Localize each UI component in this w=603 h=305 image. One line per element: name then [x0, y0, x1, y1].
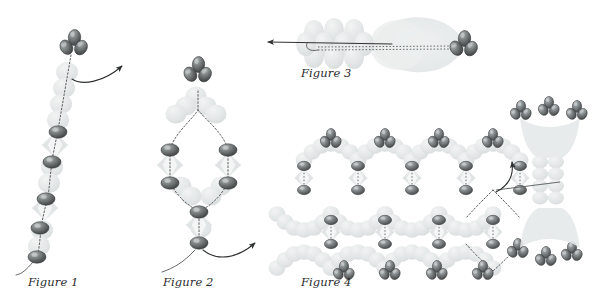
- figure-4-annotation-arrow: [496, 162, 512, 192]
- figure-2-node: [161, 177, 179, 189]
- figure-1-node: [43, 156, 61, 168]
- figure-2-group: [157, 56, 255, 272]
- figure-1-group: [16, 29, 122, 275]
- figure-1-node: [28, 251, 46, 263]
- caption-figure-1: Figure 1: [28, 275, 79, 289]
- figure-2-node: [219, 144, 237, 156]
- caption-figure-4: Figure 4: [301, 275, 352, 289]
- figure-1-node: [37, 193, 55, 205]
- figure-4-group: [269, 96, 589, 281]
- figure-1-tail: [16, 262, 33, 275]
- figure-2-node: [190, 206, 208, 218]
- figure-3-group: [268, 17, 480, 72]
- figure-4-ghost-lattice: [269, 136, 529, 276]
- figure-3-envelope-lobe: [370, 20, 426, 70]
- figure-1-trefoil-cluster: [57, 29, 90, 57]
- figure-4-node-row-upper: [297, 161, 526, 170]
- figure-2-tail: [162, 250, 195, 272]
- caption-figure-2: Figure 2: [163, 275, 214, 289]
- figure-2-node: [161, 144, 179, 156]
- figure-1-node: [31, 222, 49, 234]
- figure-2-node: [219, 177, 237, 189]
- figure-4-trefoil-bottom: [331, 260, 495, 281]
- figure-2-node: [190, 237, 208, 249]
- figures-canvas: [0, 0, 603, 305]
- caption-figure-3: Figure 3: [301, 66, 352, 80]
- figure-1-annotation-arrow: [72, 66, 122, 82]
- figure-2-trefoil-cluster: [181, 56, 214, 84]
- figure-1-node: [49, 126, 67, 138]
- figure-4-node-row-mid: [297, 185, 526, 194]
- figure-2-annotation-arrow: [203, 243, 255, 257]
